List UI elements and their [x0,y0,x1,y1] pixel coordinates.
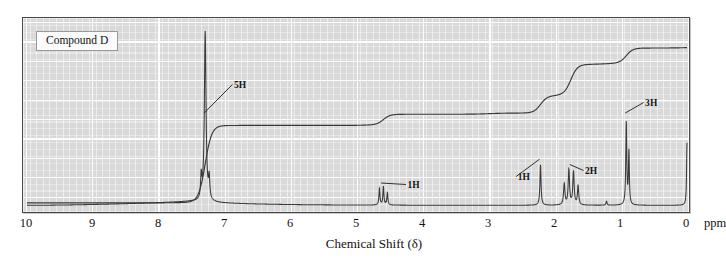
x-tick-3: 3 [485,216,491,231]
x-tick-5: 5 [353,216,359,231]
spectrum-traces [23,18,690,213]
peak-annotation-1h-2: 1H [518,172,530,182]
x-tick-0: 0 [683,216,689,231]
spectrum-plot-area [22,17,690,213]
peak-annotation-2h-3: 2H [585,166,597,176]
x-tick-6: 6 [287,216,293,231]
spectrum-trace [27,31,687,205]
x-axis-title: Chemical Shift (δ) [326,236,422,252]
x-tick-4: 4 [419,216,425,231]
x-tick-8: 8 [155,216,161,231]
peak-annotation-3h-4: 3H [645,98,657,108]
ppm-unit-label: ppm [704,216,726,231]
integration-trace [27,48,687,203]
x-tick-9: 9 [89,216,95,231]
x-tick-1: 1 [617,216,623,231]
peak-annotation-1h-1: 1H [407,180,419,190]
x-tick-7: 7 [221,216,227,231]
peak-annotation-5h-0: 5H [234,80,246,90]
x-tick-2: 2 [551,216,557,231]
compound-label: Compound D [36,31,118,51]
x-tick-10: 10 [20,216,33,231]
